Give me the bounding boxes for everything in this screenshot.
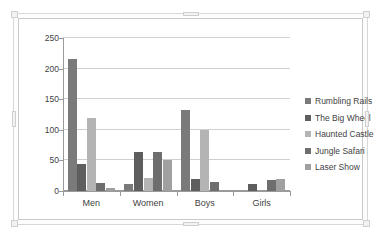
legend-label: Rumbling Rails (315, 97, 372, 106)
bar[interactable] (181, 110, 190, 191)
legend-item[interactable]: Rumbling Rails (305, 93, 383, 110)
x-axis-separator (233, 192, 234, 196)
legend-swatch-icon (305, 131, 311, 137)
legend-label: The Big Wheel (315, 114, 371, 123)
x-axis-label-women: Women (120, 199, 177, 208)
resize-handle-bottom-right[interactable] (363, 220, 370, 227)
y-axis-line (63, 38, 64, 192)
x-axis-separator (63, 192, 64, 196)
chart-legend: Rumbling RailsThe Big WheelHaunted Castl… (305, 93, 383, 176)
bar[interactable] (87, 118, 96, 191)
bar[interactable] (248, 184, 257, 191)
bar[interactable] (210, 182, 219, 191)
x-axis-separator (177, 192, 178, 196)
resize-handle-bottom-left[interactable] (11, 220, 18, 227)
resize-handle-top-center[interactable] (183, 12, 199, 16)
legend-item[interactable]: Laser Show (305, 159, 383, 176)
resize-handle-top-left[interactable] (11, 11, 18, 18)
bar[interactable] (68, 59, 77, 191)
x-axis-label-girls: Girls (233, 199, 290, 208)
legend-item[interactable]: Haunted Castle (305, 126, 383, 143)
x-axis-label-men: Men (63, 199, 120, 208)
bar[interactable] (134, 152, 143, 191)
chart-plot-region: 050100150200250 MenWomenBoysGirls Rumbli… (19, 19, 362, 219)
legend-swatch-icon (305, 98, 311, 104)
legend-swatch-icon (305, 164, 311, 170)
resize-handle-middle-right[interactable] (365, 111, 369, 127)
bar[interactable] (124, 184, 133, 191)
y-axis-tick-mark (59, 99, 63, 100)
legend-item[interactable]: The Big Wheel (305, 110, 383, 127)
x-axis-label-boys: Boys (177, 199, 234, 208)
bar[interactable] (144, 178, 153, 191)
resize-handle-bottom-center[interactable] (183, 222, 199, 226)
y-axis-tick-label: 100 (25, 126, 59, 135)
y-axis-tick-label: 150 (25, 95, 59, 104)
bar[interactable] (77, 164, 86, 191)
legend-label: Jungle Safari (315, 147, 365, 156)
bar[interactable] (191, 179, 200, 191)
resize-handle-middle-left[interactable] (12, 111, 16, 127)
legend-label: Haunted Castle (315, 130, 374, 139)
legend-item[interactable]: Jungle Safari (305, 143, 383, 160)
bar[interactable] (163, 160, 172, 191)
y-axis-tick-label: 200 (25, 65, 59, 74)
y-axis-tick-label: 0 (25, 187, 59, 196)
y-axis-tick-label: 250 (25, 34, 59, 43)
bar[interactable] (96, 183, 105, 191)
bar-group (63, 38, 120, 191)
bar[interactable] (276, 179, 285, 191)
bar-group (120, 38, 177, 191)
bar-group (233, 38, 290, 191)
chart-frame: 050100150200250 MenWomenBoysGirls Rumbli… (18, 18, 363, 220)
y-axis-tick-labels: 050100150200250 (21, 19, 59, 211)
y-axis-tick-mark (59, 38, 63, 39)
x-axis-separator (120, 192, 121, 196)
y-axis-tick-mark (59, 130, 63, 131)
bar-group (177, 38, 234, 191)
bar[interactable] (267, 180, 276, 191)
bar[interactable] (200, 130, 209, 191)
bar[interactable] (153, 152, 162, 191)
resize-handle-top-right[interactable] (363, 11, 370, 18)
legend-label: Laser Show (315, 163, 360, 172)
y-axis-tick-mark (59, 69, 63, 70)
legend-swatch-icon (305, 115, 311, 121)
y-axis-tick-label: 50 (25, 156, 59, 165)
y-axis-tick-mark (59, 160, 63, 161)
legend-swatch-icon (305, 148, 311, 154)
x-axis-separator (290, 192, 291, 196)
plot-area (63, 38, 290, 191)
embedded-chart-object[interactable]: 050100150200250 MenWomenBoysGirls Rumbli… (13, 13, 368, 225)
